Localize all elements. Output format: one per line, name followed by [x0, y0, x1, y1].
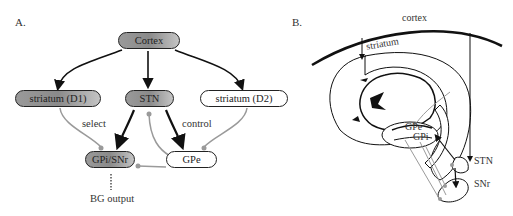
structure-label-stn: STN [474, 155, 493, 166]
structure-label-cortex: cortex [402, 12, 427, 23]
structure-label-gpi: GPi [413, 131, 429, 142]
structure-label-snr: SNr [474, 178, 490, 189]
panel-b-anatomy [0, 0, 513, 216]
